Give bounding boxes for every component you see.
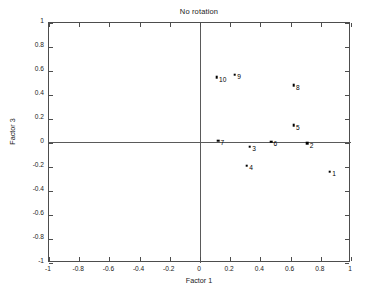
data-point-label: 10 [219,75,226,82]
data-point-label: 6 [273,140,277,147]
data-point-marker [292,124,295,127]
x-axis-tick [321,257,322,261]
x-axis-tick [170,257,171,261]
y-axis-tick [49,263,53,264]
x-axis-tick-label: 0.2 [225,265,234,272]
plot-axes-area: 12345678910 [48,22,350,262]
y-axis-tick [49,47,53,48]
chart-title: No rotation [48,7,350,16]
x-axis-tick-label: 0.4 [255,265,264,272]
x-axis-tick-top [79,23,80,27]
x-axis-tick [140,257,141,261]
y-axis-tick-right [345,191,349,192]
y-axis-tick-right [345,167,349,168]
y-axis-tick [49,23,53,24]
x-axis-tick-top [351,23,352,27]
data-point-marker [249,145,252,148]
data-point-label: 8 [296,83,300,90]
y-axis-tick-right [345,71,349,72]
x-axis-tick-top [260,23,261,27]
y-axis-tick-right [345,95,349,96]
x-axis-tick-top [140,23,141,27]
data-point-marker [270,141,273,144]
x-axis-tick [79,257,80,261]
y-axis-label: Factor 3 [8,102,17,162]
data-point-marker [329,171,332,174]
data-point-marker [215,76,218,79]
origin-vertical-line [200,23,201,263]
x-axis-tick-label: -0.4 [133,265,144,272]
x-axis-tick [49,257,50,261]
y-axis-tick [49,95,53,96]
data-point-label: 2 [310,141,314,148]
data-point-marker [306,142,309,145]
x-axis-tick-top [200,23,201,27]
scatter-plot-figure: No rotation 12345678910 Factor 1 Factor … [0,0,369,300]
x-axis-tick [200,257,201,261]
y-axis-tick [49,215,53,216]
y-axis-tick-right [345,215,349,216]
data-point-marker [246,165,249,168]
x-axis-tick-top [291,23,292,27]
data-point-label: 3 [252,145,256,152]
y-axis-tick [49,167,53,168]
x-axis-tick [230,257,231,261]
x-axis-tick-top [321,23,322,27]
x-axis-tick [260,257,261,261]
x-axis-tick [109,257,110,261]
data-point-label: 9 [237,73,241,80]
y-axis-tick-right [345,23,349,24]
y-axis-tick-right [345,143,349,144]
data-point-label: 1 [332,170,336,177]
data-point-marker [233,73,236,76]
data-point-label: 4 [249,164,253,171]
x-axis-tick-label: 1 [348,265,352,272]
x-axis-tick-top [230,23,231,27]
y-axis-tick-right [345,239,349,240]
y-axis-tick [49,119,53,120]
data-point-label: 5 [296,123,300,130]
x-axis-tick-label: 0 [197,265,201,272]
data-point-marker [292,84,295,87]
x-axis-tick [291,257,292,261]
y-axis-tick [49,191,53,192]
x-axis-tick-top [170,23,171,27]
x-axis-tick-label: -1 [45,265,51,272]
x-axis-tick-label: 0.6 [285,265,294,272]
x-axis-tick-label: 0.8 [315,265,324,272]
data-point-marker [217,139,220,142]
data-point-label: 7 [221,139,225,146]
y-axis-tick [49,239,53,240]
y-axis-tick-right [345,263,349,264]
y-axis-tick-right [345,47,349,48]
x-axis-tick-top [109,23,110,27]
x-axis-tick [351,257,352,261]
x-axis-label: Factor 1 [48,276,350,285]
y-axis-tick [49,71,53,72]
x-axis-tick-label: -0.8 [73,265,84,272]
x-axis-tick-label: -0.6 [103,265,114,272]
y-axis-tick-right [345,119,349,120]
y-axis-tick [49,143,53,144]
x-axis-tick-label: -0.2 [163,265,174,272]
